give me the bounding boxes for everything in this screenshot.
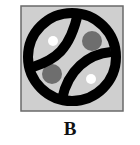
white-dot-top-left (48, 36, 58, 46)
figure-label: B (0, 118, 140, 140)
dark-dot-top-right (82, 31, 102, 51)
white-dot-bottom-right (86, 74, 96, 84)
